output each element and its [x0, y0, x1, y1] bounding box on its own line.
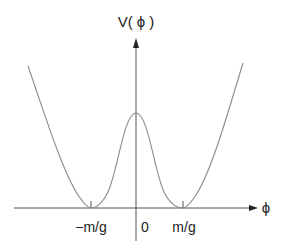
x-axis-label: ϕ: [262, 199, 270, 216]
y-axis-label: V( ϕ ): [118, 13, 155, 30]
x-axis-arrow-icon: [249, 205, 258, 211]
tick-label-right-min: m/g: [172, 219, 195, 235]
y-axis-arrow-icon: [133, 38, 139, 48]
tick-label-left-min: −m/g: [75, 219, 107, 235]
double-well-potential-diagram: V( ϕ ) ϕ −m/g 0 m/g: [0, 0, 282, 250]
tick-label-origin: 0: [141, 219, 149, 235]
